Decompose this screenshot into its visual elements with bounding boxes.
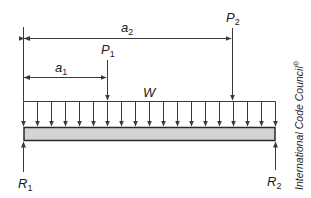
label-p1: P1: [101, 42, 115, 59]
reaction-r1: R1: [18, 142, 32, 193]
point-load-p2: P2: [226, 10, 240, 100]
arrowhead-icon: [24, 36, 30, 41]
distributed-load: [24, 102, 276, 127]
credit-text: International Code Council®: [293, 60, 305, 190]
dimension-a2: a2: [24, 20, 231, 41]
label-r2: R2: [267, 174, 281, 191]
label-a2: a2: [121, 20, 133, 37]
label-a1: a1: [55, 60, 67, 77]
label-p2: P2: [226, 10, 240, 27]
point-load-p1: P1: [101, 42, 115, 100]
reaction-r2: R2: [267, 142, 281, 191]
beam-diagram: a2 a1 P1 P2 W R1 R2 International Code C…: [0, 0, 311, 198]
label-w: W: [143, 85, 157, 100]
beam: [24, 128, 275, 141]
dimension-a1: a1: [24, 60, 106, 80]
arrowhead-icon: [24, 75, 30, 80]
label-r1: R1: [18, 176, 32, 193]
